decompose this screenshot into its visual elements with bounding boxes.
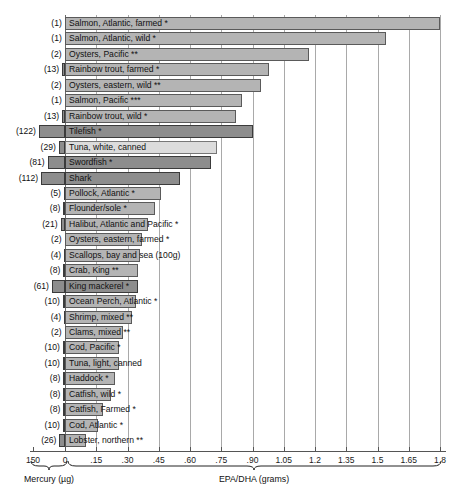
mercury-value-label: (1)	[51, 95, 62, 105]
mercury-bar	[52, 280, 65, 293]
mercury-value-label: (21)	[42, 219, 57, 229]
axis-tick	[96, 447, 97, 451]
species-label: Haddock *	[69, 373, 109, 383]
mercury-value-label: (2)	[51, 49, 62, 59]
species-label: Oysters, Pacific **	[69, 49, 138, 59]
species-label: Tuna, light, canned	[69, 358, 142, 368]
bar-row: (13)Rainbow trout, farmed *	[0, 61, 456, 78]
species-label: Catfish, Farmed *	[69, 404, 136, 414]
species-label: Shrimp, mixed **	[69, 312, 133, 322]
mercury-value-label: (122)	[16, 126, 36, 136]
species-label: Salmon, Atlantic, farmed *	[69, 18, 168, 28]
bar-row: (1)Salmon, Atlantic, farmed *	[0, 15, 456, 32]
mercury-value-label: (29)	[41, 142, 56, 152]
mercury-brace	[30, 460, 68, 471]
mercury-value-label: (81)	[29, 157, 44, 167]
axis-tick	[409, 447, 410, 451]
axis-tick	[221, 447, 222, 451]
axis-tick	[65, 447, 66, 451]
species-label: Crab, King **	[69, 265, 119, 275]
species-label: Swordfish *	[69, 157, 112, 167]
species-label: King mackerel *	[69, 281, 129, 291]
species-label: Oysters, eastern, farmed *	[69, 234, 169, 244]
axis-tick	[159, 447, 160, 451]
plot-area: (1)Salmon, Atlantic, farmed *(1)Salmon, …	[0, 0, 456, 496]
bar-row: (4)Scallops, bay and sea (100g)	[0, 247, 456, 264]
mercury-value-label: (1)	[51, 33, 62, 43]
mercury-value-label: (13)	[44, 111, 59, 121]
mercury-value-label: (8)	[50, 404, 61, 414]
mercury-value-label: (8)	[50, 203, 61, 213]
mercury-value-label: (8)	[50, 265, 61, 275]
species-label: Oysters, eastern, wild **	[69, 80, 161, 90]
mercury-value-label: (10)	[45, 358, 60, 368]
bar-row: (8)Catfish, Farmed *	[0, 401, 456, 418]
species-label: Lobster, northern **	[69, 435, 143, 445]
bar-row: (2)Oysters, eastern, farmed *	[0, 231, 456, 248]
axis-tick	[284, 447, 285, 451]
bar-row: (29)Tuna, white, canned	[0, 139, 456, 156]
axis-tick	[346, 447, 347, 451]
axis-tick	[440, 447, 441, 451]
species-label: Halibut, Atlantic and Pacific *	[69, 219, 178, 229]
species-label: Rainbow trout, farmed *	[69, 64, 159, 74]
bar-row: (26)Lobster, northern **	[0, 432, 456, 449]
mercury-value-label: (5)	[50, 188, 61, 198]
species-label: Cod, Pacific *	[69, 342, 121, 352]
species-label: Cod, Atlantic *	[69, 420, 123, 430]
mercury-value-label: (26)	[41, 435, 56, 445]
bar-row: (1)Salmon, Atlantic, wild *	[0, 30, 456, 47]
species-label: Rainbow trout, wild *	[69, 111, 147, 121]
species-label: Tuna, white, canned	[69, 142, 146, 152]
mercury-value-label: (8)	[50, 373, 61, 383]
bar-row: (4)Shrimp, mixed **	[0, 309, 456, 326]
mercury-value-label: (4)	[51, 250, 62, 260]
bar-row: (10)Ocean Perch, Atlantic *	[0, 293, 456, 310]
mercury-value-label: (61)	[34, 281, 49, 291]
epadha-axis-label: EPA/DHA (grams)	[219, 474, 289, 484]
mercury-value-label: (13)	[44, 64, 59, 74]
bar-row: (10)Cod, Atlantic *	[0, 417, 456, 434]
bar-row: (8)Haddock *	[0, 370, 456, 387]
bar-row: (81)Swordfish *	[0, 154, 456, 171]
bar-row: (8)Flounder/sole *	[0, 200, 456, 217]
species-label: Scallops, bay and sea (100g)	[69, 250, 180, 260]
bar-row: (21)Halibut, Atlantic and Pacific *	[0, 216, 456, 233]
mercury-bar	[41, 172, 65, 185]
species-label: Catfish, wild *	[69, 389, 121, 399]
axis-tick	[378, 447, 379, 451]
bar-row: (61)King mackerel *	[0, 278, 456, 295]
mercury-bar	[39, 125, 65, 138]
bar-row: (2)Clams, mixed **	[0, 324, 456, 341]
bar-row: (1)Salmon, Pacific ***	[0, 92, 456, 109]
axis-tick	[315, 447, 316, 451]
bar-row: (13)Rainbow trout, wild *	[0, 108, 456, 125]
species-label: Flounder/sole *	[69, 203, 127, 213]
mercury-value-label: (8)	[50, 389, 61, 399]
bar-row: (112)Shark	[0, 170, 456, 187]
axis-tick	[253, 447, 254, 451]
species-label: Salmon, Pacific ***	[69, 95, 141, 105]
axis-tick	[190, 447, 191, 451]
mercury-value-label: (10)	[45, 296, 60, 306]
mercury-value-label: (2)	[51, 234, 62, 244]
axis-baseline	[30, 451, 446, 452]
mercury-value-label: (2)	[51, 327, 62, 337]
bar-row: (10)Cod, Pacific *	[0, 339, 456, 356]
axis-tick	[33, 447, 34, 451]
species-label: Clams, mixed **	[69, 327, 130, 337]
mercury-bar	[48, 156, 65, 169]
bar-row: (2)Oysters, eastern, wild **	[0, 77, 456, 94]
bar-row: (5)Pollock, Atlantic *	[0, 185, 456, 202]
mercury-value-label: (10)	[45, 420, 60, 430]
bar-row: (10)Tuna, light, canned	[0, 355, 456, 372]
mercury-value-label: (1)	[51, 18, 62, 28]
species-label: Salmon, Atlantic, wild *	[69, 33, 156, 43]
species-label: Shark	[69, 173, 91, 183]
mercury-axis-label: Mercury (µg)	[24, 474, 74, 484]
bar-row: (122)Tilefish *	[0, 123, 456, 140]
mercury-value-label: (112)	[19, 173, 38, 183]
mercury-value-label: (10)	[45, 342, 60, 352]
seafood-mercury-epadha-chart: (1)Salmon, Atlantic, farmed *(1)Salmon, …	[0, 0, 456, 496]
species-label: Pollock, Atlantic *	[69, 188, 135, 198]
